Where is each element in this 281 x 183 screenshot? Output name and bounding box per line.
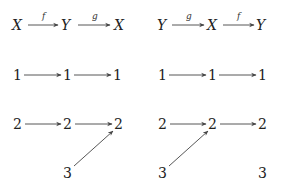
left-arrow-g-label: g: [92, 11, 98, 21]
left-header-node-3: X: [113, 17, 125, 33]
left-row1-node-1: 1: [13, 67, 22, 83]
right-diagram: Y X Y g f 1 1 1 2 2 2 3 3: [157, 11, 267, 181]
right-row3-node-2: 3: [258, 165, 267, 181]
right-header-node-2: X: [206, 17, 218, 33]
right-row1-node-2: 1: [208, 67, 217, 83]
right-row2-node-3: 2: [258, 116, 267, 132]
left-row3-diagonal-arrow: [74, 131, 113, 166]
right-row2-node-1: 2: [158, 116, 167, 132]
left-row2-node-1: 2: [13, 116, 22, 132]
right-header-node-3: Y: [256, 17, 267, 33]
left-row1-node-2: 1: [63, 67, 72, 83]
right-row3-node-1: 3: [158, 165, 167, 181]
right-row1-node-3: 1: [258, 67, 267, 83]
left-row3-node-1: 3: [63, 165, 72, 181]
right-row3-diagonal-arrow: [169, 131, 208, 166]
left-row2-node-2: 2: [63, 116, 72, 132]
left-row2-node-3: 2: [114, 116, 123, 132]
right-row2-node-2: 2: [208, 116, 217, 132]
left-header-node-2: Y: [61, 17, 72, 33]
right-arrow-g-label: g: [186, 11, 192, 21]
left-arrow-f-label: f: [41, 11, 47, 21]
function-composition-diagram: X Y X f g 1 1 1 2 2 2 3 Y X Y g f 1 1 1: [0, 0, 281, 183]
left-row1-node-3: 1: [113, 67, 122, 83]
right-header-node-1: Y: [157, 17, 168, 33]
left-diagram: X Y X f g 1 1 1 2 2 2 3: [11, 11, 125, 181]
left-header-node-1: X: [11, 17, 23, 33]
right-row1-node-1: 1: [158, 67, 167, 83]
right-arrow-f-label: f: [236, 11, 242, 21]
